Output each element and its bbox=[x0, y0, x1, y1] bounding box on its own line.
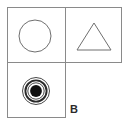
cell-bottom-left bbox=[23, 78, 50, 105]
circle-outline-shape bbox=[19, 20, 51, 52]
figure-panel-b: B bbox=[0, 0, 133, 125]
triangle-outline-shape bbox=[77, 23, 111, 50]
bullseye-center-dot-icon bbox=[30, 85, 42, 97]
cell-top-left bbox=[19, 20, 51, 52]
panel-label-b: B bbox=[70, 103, 78, 116]
cell-top-right bbox=[77, 23, 111, 50]
diagram-canvas bbox=[0, 0, 133, 125]
